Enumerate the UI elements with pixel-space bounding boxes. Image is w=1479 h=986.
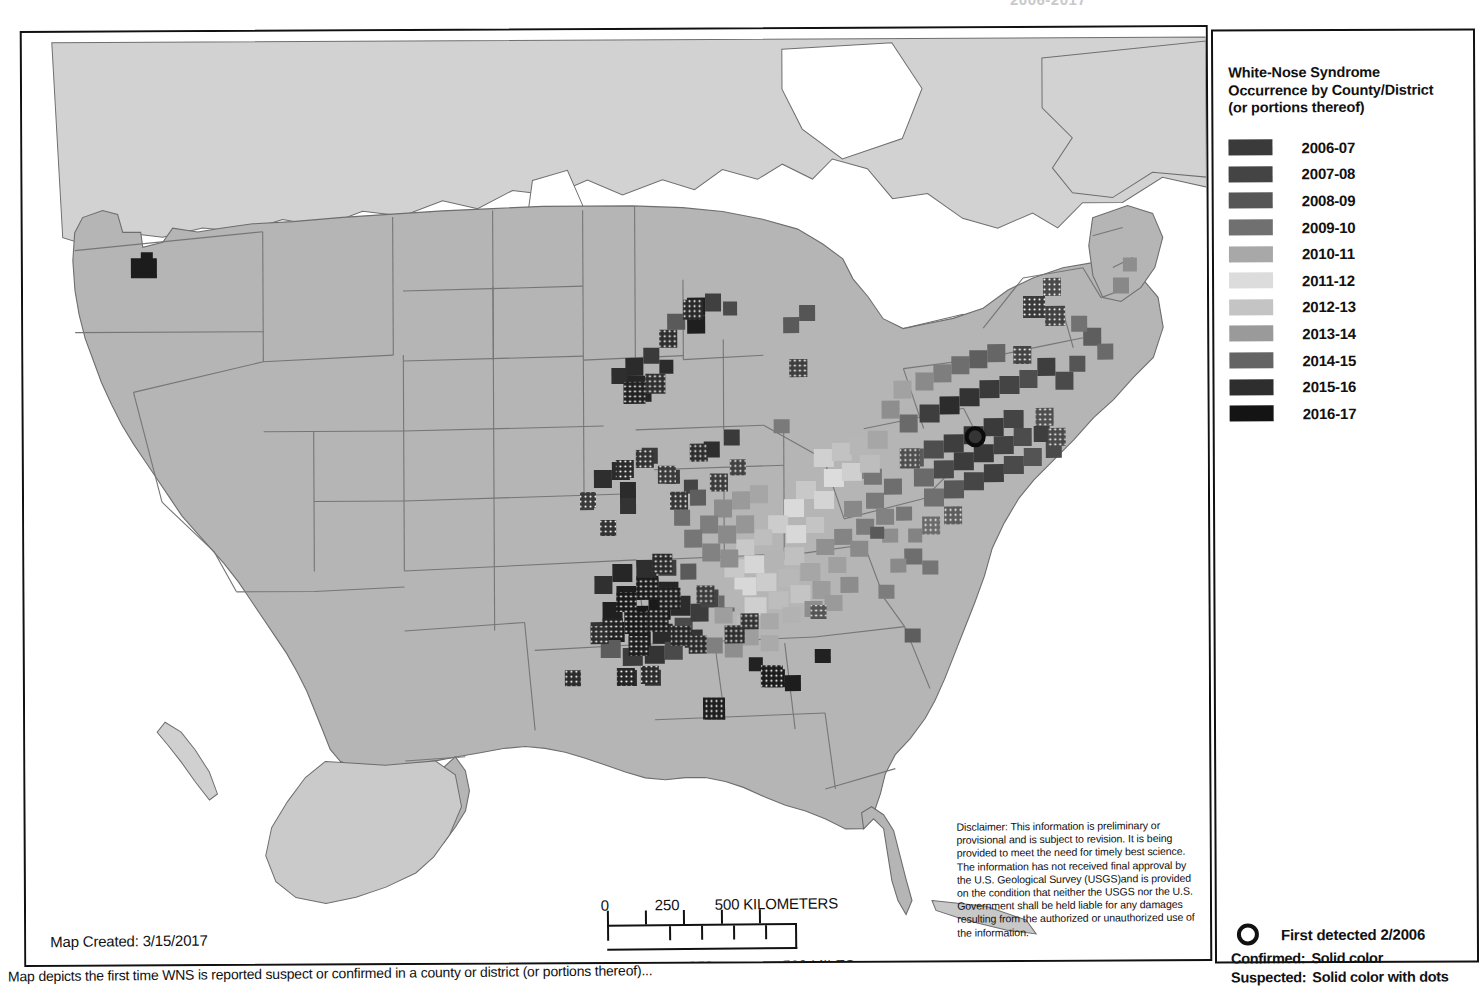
legend-item-label: 2007-08 xyxy=(1302,165,1356,182)
legend-item-label: 2008-09 xyxy=(1302,192,1356,209)
scale-mi-minor-tick xyxy=(765,925,767,939)
legend-item-label: 2011-12 xyxy=(1302,272,1355,289)
legend-item-2009-10[interactable]: 2009-10 xyxy=(1229,213,1469,241)
legend-panel: White-Nose Syndrome Occurrence by County… xyxy=(1211,28,1479,963)
legend-swatch xyxy=(1229,379,1273,395)
legend-swatch xyxy=(1229,193,1273,209)
confirmed-key-row: Confirmed:Solid color xyxy=(1231,949,1475,966)
scale-mi-minor-tick xyxy=(733,926,735,940)
legend-swatch xyxy=(1229,326,1273,342)
legend-title: White-Nose Syndrome Occurrence by County… xyxy=(1228,63,1466,117)
scale-km-tick-500: 500 KILOMETERS xyxy=(715,894,838,912)
legend-item-label: 2006-07 xyxy=(1301,139,1355,156)
confirmed-label: Confirmed: xyxy=(1231,950,1305,966)
legend-swatch xyxy=(1230,406,1274,422)
legend-key-block: First detected 2/2006 Confirmed:Solid co… xyxy=(1231,920,1475,985)
legend-swatch xyxy=(1229,299,1273,315)
legend-item-label: 2014-15 xyxy=(1302,351,1356,368)
legend-item-2015-16[interactable]: 2015-16 xyxy=(1229,373,1469,401)
legend-item-2007-08[interactable]: 2007-08 xyxy=(1229,160,1469,188)
first-detected-key-row: First detected 2/2006 xyxy=(1231,920,1475,947)
scale-km-minor-tick xyxy=(721,910,723,924)
scale-start-tick xyxy=(607,911,609,941)
clipped-header-text: 2006-2017 xyxy=(1010,0,1230,7)
legend-swatch xyxy=(1228,140,1272,156)
scale-mi-minor-tick xyxy=(701,926,703,940)
legend-item-2006-07[interactable]: 2006-07 xyxy=(1228,133,1468,161)
scale-end-tick xyxy=(795,925,797,949)
legend-item-label: 2015-16 xyxy=(1302,378,1356,395)
scale-mi-minor-tick xyxy=(669,926,671,940)
circle-icon xyxy=(1237,923,1259,945)
legend-title-line-3: (or portions thereof) xyxy=(1228,98,1466,117)
legend-swatch xyxy=(1229,246,1273,262)
legend-item-2008-09[interactable]: 2008-09 xyxy=(1229,187,1469,215)
disclaimer-text: Disclaimer: This information is prelimin… xyxy=(956,819,1202,940)
legend-item-2012-13[interactable]: 2012-13 xyxy=(1229,293,1469,321)
legend-item-label: 2010-11 xyxy=(1302,245,1355,262)
legend-item-2013-14[interactable]: 2013-14 xyxy=(1229,320,1469,348)
legend-item-2010-11[interactable]: 2010-11 xyxy=(1229,240,1469,268)
first-detected-label: First detected 2/2006 xyxy=(1281,925,1425,943)
first-detected-map-marker xyxy=(965,426,986,447)
scale-km-minor-tick xyxy=(759,909,761,923)
suspected-value: Solid color with dots xyxy=(1312,969,1448,986)
map-frame[interactable]: Disclaimer: This information is prelimin… xyxy=(20,25,1213,967)
scale-bar: 0 250 500 KILOMETERS 0 250 500 MILES xyxy=(601,894,902,965)
scale-km-minor-tick xyxy=(683,910,685,924)
scale-axis-line-miles xyxy=(607,947,797,951)
legend-item-label: 2012-13 xyxy=(1302,298,1356,315)
map-created-date: Map Created: 3/15/2017 xyxy=(50,932,208,951)
scale-km-tick-250: 250 xyxy=(655,896,680,913)
legend-item-label: 2013-14 xyxy=(1302,325,1356,342)
legend-item-label: 2016-17 xyxy=(1303,405,1357,422)
legend-item-2011-12[interactable]: 2011-12 xyxy=(1229,266,1469,294)
legend-item-2016-17[interactable]: 2016-17 xyxy=(1230,399,1470,427)
legend-swatch xyxy=(1229,166,1273,182)
map-canvas[interactable]: Disclaimer: This information is prelimin… xyxy=(22,27,1211,965)
suspected-label: Suspected: xyxy=(1231,969,1306,985)
legend-title-line-1: White-Nose Syndrome xyxy=(1228,63,1466,82)
legend-swatch xyxy=(1229,352,1273,368)
confirmed-value: Solid color xyxy=(1311,950,1383,966)
legend-swatch xyxy=(1229,273,1273,289)
scale-km-minor-tick xyxy=(645,910,647,924)
legend-swatch xyxy=(1229,219,1273,235)
legend-title-line-2: Occurrence by County/District xyxy=(1228,81,1466,100)
legend-item-label: 2009-10 xyxy=(1302,219,1356,236)
legend-item-list: 2006-07 2007-08 2008-09 2009-10 2010-11 … xyxy=(1228,133,1469,427)
suspected-key-row: Suspected:Solid color with dots xyxy=(1231,968,1475,985)
legend-item-2014-15[interactable]: 2014-15 xyxy=(1229,346,1469,374)
